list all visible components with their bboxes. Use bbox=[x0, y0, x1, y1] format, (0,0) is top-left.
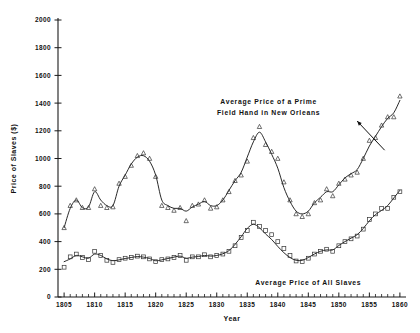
y-tick-label: 1800 bbox=[35, 44, 51, 51]
annotations-group: Average Price of a PrimeField Hand in Ne… bbox=[217, 98, 385, 286]
data-point-square bbox=[282, 247, 286, 251]
price-of-slaves-chart: 0200400600800100012001400160018002000 18… bbox=[0, 0, 420, 333]
annotation-text-line: Field Hand in New Orleans bbox=[217, 109, 320, 116]
data-point-triangle bbox=[398, 94, 402, 98]
all-slaves-annotation: Average Price of All Slaves bbox=[255, 279, 361, 287]
x-axis-ticks bbox=[64, 293, 400, 298]
y-axis-tick-labels: 0200400600800100012001400160018002000 bbox=[35, 16, 51, 300]
x-tick-label: 1805 bbox=[56, 301, 72, 308]
data-point-triangle bbox=[276, 156, 280, 160]
data-point-triangle bbox=[141, 151, 145, 155]
y-tick-label: 0 bbox=[47, 293, 51, 300]
x-tick-label: 1815 bbox=[117, 301, 133, 308]
annotation-text-line: Average Price of All Slaves bbox=[255, 279, 361, 287]
y-tick-label: 800 bbox=[39, 183, 51, 190]
y-tick-label: 200 bbox=[39, 266, 51, 273]
y-tick-label: 1000 bbox=[35, 155, 51, 162]
series-lines-group bbox=[64, 100, 400, 261]
data-point-square bbox=[203, 253, 207, 257]
data-point-triangle bbox=[227, 189, 231, 193]
x-tick-label: 1835 bbox=[239, 301, 255, 308]
x-tick-label: 1860 bbox=[392, 301, 408, 308]
x-axis-title: Year bbox=[224, 315, 241, 322]
x-tick-label: 1825 bbox=[178, 301, 194, 308]
x-tick-label: 1820 bbox=[148, 301, 164, 308]
data-point-square bbox=[264, 229, 268, 233]
data-point-triangle bbox=[92, 187, 96, 191]
data-point-square bbox=[209, 255, 213, 259]
y-axis-title: Price of Slaves ($) bbox=[10, 124, 18, 194]
data-point-triangle bbox=[257, 124, 261, 128]
y-tick-label: 1400 bbox=[35, 100, 51, 107]
data-point-square bbox=[276, 240, 280, 244]
y-tick-label: 2000 bbox=[35, 16, 51, 23]
x-tick-label: 1830 bbox=[209, 301, 225, 308]
data-point-triangle bbox=[178, 205, 182, 209]
data-point-square bbox=[62, 265, 66, 269]
data-point-triangle bbox=[123, 174, 127, 178]
data-point-square bbox=[184, 258, 188, 262]
data-point-triangle bbox=[324, 187, 328, 191]
x-tick-label: 1810 bbox=[87, 301, 103, 308]
series-markers-all-slaves bbox=[62, 190, 402, 269]
x-tick-label: 1845 bbox=[300, 301, 316, 308]
x-axis-tick-labels: 1805181018151820182518301835184018451850… bbox=[56, 301, 408, 308]
data-point-triangle bbox=[99, 203, 103, 207]
data-point-square bbox=[251, 220, 255, 224]
x-tick-label: 1850 bbox=[331, 301, 347, 308]
x-tick-label: 1840 bbox=[270, 301, 286, 308]
y-tick-label: 600 bbox=[39, 210, 51, 217]
data-point-triangle bbox=[215, 205, 219, 209]
data-point-triangle bbox=[300, 214, 304, 218]
data-point-square bbox=[93, 249, 97, 253]
data-point-triangle bbox=[392, 115, 396, 119]
y-tick-label: 400 bbox=[39, 238, 51, 245]
data-point-triangle bbox=[129, 163, 133, 167]
data-point-triangle bbox=[147, 156, 151, 160]
data-point-triangle bbox=[367, 138, 371, 142]
series-markers-group bbox=[62, 94, 402, 269]
prime-field-hand-annotation: Average Price of a PrimeField Hand in Ne… bbox=[217, 98, 385, 150]
axes-group bbox=[58, 18, 406, 297]
data-point-square bbox=[270, 233, 274, 237]
y-tick-label: 1200 bbox=[35, 127, 51, 134]
data-point-triangle bbox=[331, 194, 335, 198]
data-point-triangle bbox=[184, 219, 188, 223]
data-point-triangle bbox=[251, 135, 255, 139]
chart-container: 0200400600800100012001400160018002000 18… bbox=[0, 0, 420, 333]
data-point-triangle bbox=[166, 205, 170, 209]
y-tick-label: 1600 bbox=[35, 72, 51, 79]
x-tick-label: 1855 bbox=[361, 301, 377, 308]
data-point-triangle bbox=[208, 206, 212, 210]
data-point-triangle bbox=[160, 203, 164, 207]
annotation-text-line: Average Price of a Prime bbox=[220, 98, 317, 106]
